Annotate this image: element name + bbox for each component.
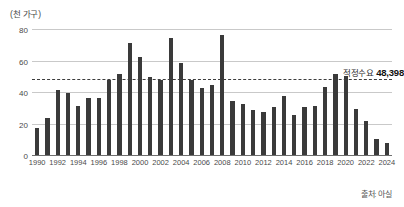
reference-line-label: 적정수요 [343, 68, 374, 78]
bar [282, 96, 286, 156]
x-tick-label: 2016 [296, 158, 313, 167]
chart-container: (천 가구) 020406080 적정수요 48,398 19901992199… [0, 0, 404, 207]
x-tick-label: 2010 [235, 158, 252, 167]
bar [313, 106, 317, 156]
y-tick-label: 80 [6, 26, 28, 35]
x-axis-labels: 1990199219941996199820002002200420062008… [32, 158, 392, 172]
bar [251, 110, 255, 156]
x-tick-label: 2006 [193, 158, 210, 167]
bar [364, 121, 368, 156]
x-tick-label: 1996 [91, 158, 108, 167]
y-tick-label: 20 [6, 120, 28, 129]
x-tick-label: 2024 [379, 158, 396, 167]
bar [179, 63, 183, 156]
x-tick-label: 2000 [132, 158, 149, 167]
reference-line [32, 79, 392, 80]
bar [97, 98, 101, 156]
plot-area [32, 30, 392, 156]
reference-line-value: 48,398 [376, 67, 404, 78]
bar [230, 101, 234, 156]
bar [292, 115, 296, 156]
x-tick-label: 2014 [276, 158, 293, 167]
y-tick-label: 40 [6, 89, 28, 98]
x-tick-label: 2008 [214, 158, 231, 167]
x-tick-label: 2004 [173, 158, 190, 167]
x-tick-label: 2002 [152, 158, 169, 167]
y-axis-unit-label: (천 가구) [10, 7, 41, 19]
x-tick-label: 2020 [337, 158, 354, 167]
bar [333, 74, 337, 156]
x-tick-label: 1998 [111, 158, 128, 167]
x-tick-label: 2018 [317, 158, 334, 167]
bar [128, 43, 132, 156]
bar [76, 106, 80, 156]
bar [66, 93, 70, 156]
bar [117, 74, 121, 156]
bar [354, 109, 358, 156]
bar [241, 104, 245, 156]
x-tick-label: 1992 [49, 158, 66, 167]
bar [189, 80, 193, 156]
bar [272, 107, 276, 156]
x-tick-label: 1990 [29, 158, 46, 167]
x-tick-label: 2022 [358, 158, 375, 167]
bar [45, 118, 49, 156]
bar [158, 80, 162, 156]
bar [56, 90, 60, 156]
x-tick-label: 1994 [70, 158, 87, 167]
bar [374, 139, 378, 156]
bar [220, 35, 224, 156]
bar [148, 77, 152, 156]
y-tick-label: 60 [6, 57, 28, 66]
bar [302, 107, 306, 156]
bar [261, 112, 265, 156]
source-note: 출처: 아실 [361, 188, 392, 199]
reference-line-annotation: 적정수요 48,398 [343, 66, 404, 78]
bar [344, 76, 348, 156]
x-tick-label: 2012 [255, 158, 272, 167]
bar [323, 87, 327, 156]
x-axis-line [32, 155, 392, 156]
bar [210, 85, 214, 156]
bar [200, 88, 204, 156]
bars-layer [32, 30, 392, 156]
bar [35, 128, 39, 156]
y-tick-label: 0 [6, 152, 28, 161]
bar [169, 38, 173, 156]
bar [86, 98, 90, 156]
bar [138, 57, 142, 156]
bar [107, 80, 111, 156]
